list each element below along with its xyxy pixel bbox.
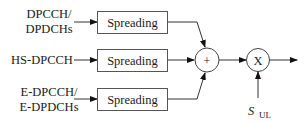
spreading-label-1: Spreading bbox=[107, 16, 158, 30]
spreading-block-3: Spreading bbox=[98, 89, 168, 111]
scrambling-code-subscript: UL bbox=[259, 110, 271, 120]
sum-node: + bbox=[195, 48, 219, 72]
multiply-icon: X bbox=[253, 54, 262, 68]
spreading-block-1: Spreading bbox=[98, 12, 168, 34]
input-label-dpdchs: DPDCHs bbox=[25, 22, 72, 36]
input-label-e-dpcch: E-DPCCH/ bbox=[21, 85, 78, 99]
spreading-label-3: Spreading bbox=[107, 93, 158, 107]
input-label-dpcch: DPCCH/ bbox=[26, 7, 72, 21]
scrambling-code-label: S bbox=[248, 104, 255, 118]
arrow-block1-to-sum bbox=[168, 22, 205, 47]
input-label-e-dpdchs: E-DPDCHs bbox=[19, 100, 78, 114]
uplink-spreading-diagram: DPCCH/ DPDCHs HS-DPCCH E-DPCCH/ E-DPDCHs… bbox=[0, 0, 307, 123]
multiply-node: X bbox=[247, 49, 270, 72]
spreading-label-2: Spreading bbox=[107, 54, 158, 68]
spreading-block-2: Spreading bbox=[98, 50, 168, 72]
input-label-hs-dpcch: HS-DPCCH bbox=[11, 53, 73, 67]
arrow-block3-to-sum bbox=[168, 73, 205, 99]
plus-icon: + bbox=[204, 54, 211, 68]
